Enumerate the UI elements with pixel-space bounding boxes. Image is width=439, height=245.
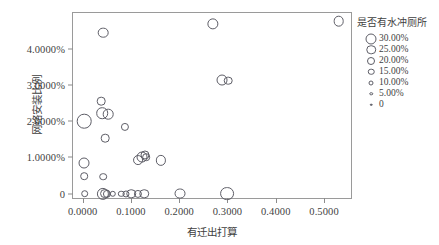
y-axis-tick <box>68 85 73 86</box>
legend-bubble-icon <box>363 33 379 44</box>
legend-item: 20.00% <box>357 55 437 66</box>
y-axis-tick-label: 0 <box>60 188 65 199</box>
legend-bubble-icon <box>363 55 379 66</box>
y-axis-tick <box>68 121 73 122</box>
x-axis-tick-label: 0.1000 <box>116 206 145 217</box>
legend-item-label: 0 <box>379 99 384 110</box>
legend-bubble-icon <box>363 99 379 110</box>
y-axis-tick <box>68 49 73 50</box>
legend-item: 15.00% <box>357 66 437 77</box>
x-axis-tick <box>276 198 277 203</box>
data-point <box>175 188 186 199</box>
data-point <box>221 187 235 201</box>
legend-item-label: 30.00% <box>379 33 408 44</box>
x-axis-tick-label: 0.3000 <box>213 206 242 217</box>
legend-title: 是否有水冲厕所 <box>357 14 437 29</box>
legend-bubble-icon <box>363 88 379 99</box>
data-point <box>101 134 110 143</box>
x-axis-tick <box>324 198 325 203</box>
data-point <box>140 189 149 198</box>
data-point <box>109 190 115 196</box>
legend-item: 30.00% <box>357 33 437 44</box>
legend-item: 5.00% <box>357 88 437 99</box>
x-axis-tick-label: 0.5000 <box>309 206 338 217</box>
data-point <box>77 114 92 129</box>
y-axis-tick-label: 4.0000% <box>27 44 65 55</box>
bubble-scatter-chart: 01.0000%2.0000%3.0000%4.0000%0.00000.100… <box>0 0 439 245</box>
data-point <box>97 97 106 106</box>
legend-bubble-icon <box>363 66 379 77</box>
data-point <box>98 28 109 39</box>
data-point <box>103 109 114 120</box>
legend-item: 0 <box>357 99 437 110</box>
data-point <box>207 18 218 29</box>
legend-item-label: 15.00% <box>379 66 408 77</box>
data-point <box>121 123 129 131</box>
data-point <box>81 190 89 198</box>
legend-bubble-icon <box>363 77 379 88</box>
legend-rows: 30.00%25.00%20.00%15.00%10.00%5.00%0 <box>357 33 437 110</box>
x-axis-tick <box>83 198 84 203</box>
data-point <box>333 16 344 27</box>
y-axis-tick-label: 1.0000% <box>27 152 65 163</box>
x-axis-tick-label: 0.0000 <box>68 206 97 217</box>
legend-item-label: 20.00% <box>379 55 408 66</box>
plot-frame: 01.0000%2.0000%3.0000%4.0000%0.00000.100… <box>72 12 352 199</box>
data-point <box>142 154 150 162</box>
y-axis-tick <box>68 157 73 158</box>
x-axis-tick-label: 0.2000 <box>164 206 193 217</box>
legend-item-label: 10.00% <box>379 77 408 88</box>
data-point <box>156 155 166 165</box>
legend-bubble-icon <box>363 44 379 55</box>
x-axis-tick-label: 0.4000 <box>261 206 290 217</box>
data-point <box>224 77 233 86</box>
size-legend: 是否有水冲厕所 30.00%25.00%20.00%15.00%10.00%5.… <box>357 14 437 110</box>
legend-item: 25.00% <box>357 44 437 55</box>
x-axis-title: 有迁出打算 <box>72 224 352 239</box>
legend-item: 10.00% <box>357 77 437 88</box>
data-point <box>79 157 90 168</box>
legend-item-label: 5.00% <box>379 88 404 99</box>
legend-item-label: 25.00% <box>379 44 408 55</box>
x-axis-tick <box>131 198 132 203</box>
y-axis-tick <box>68 193 73 194</box>
data-point <box>81 172 89 180</box>
data-point <box>100 173 108 181</box>
plot-area: 01.0000%2.0000%3.0000%4.0000%0.00000.100… <box>73 13 351 198</box>
y-axis-title: 网络安装比例 <box>29 75 44 135</box>
